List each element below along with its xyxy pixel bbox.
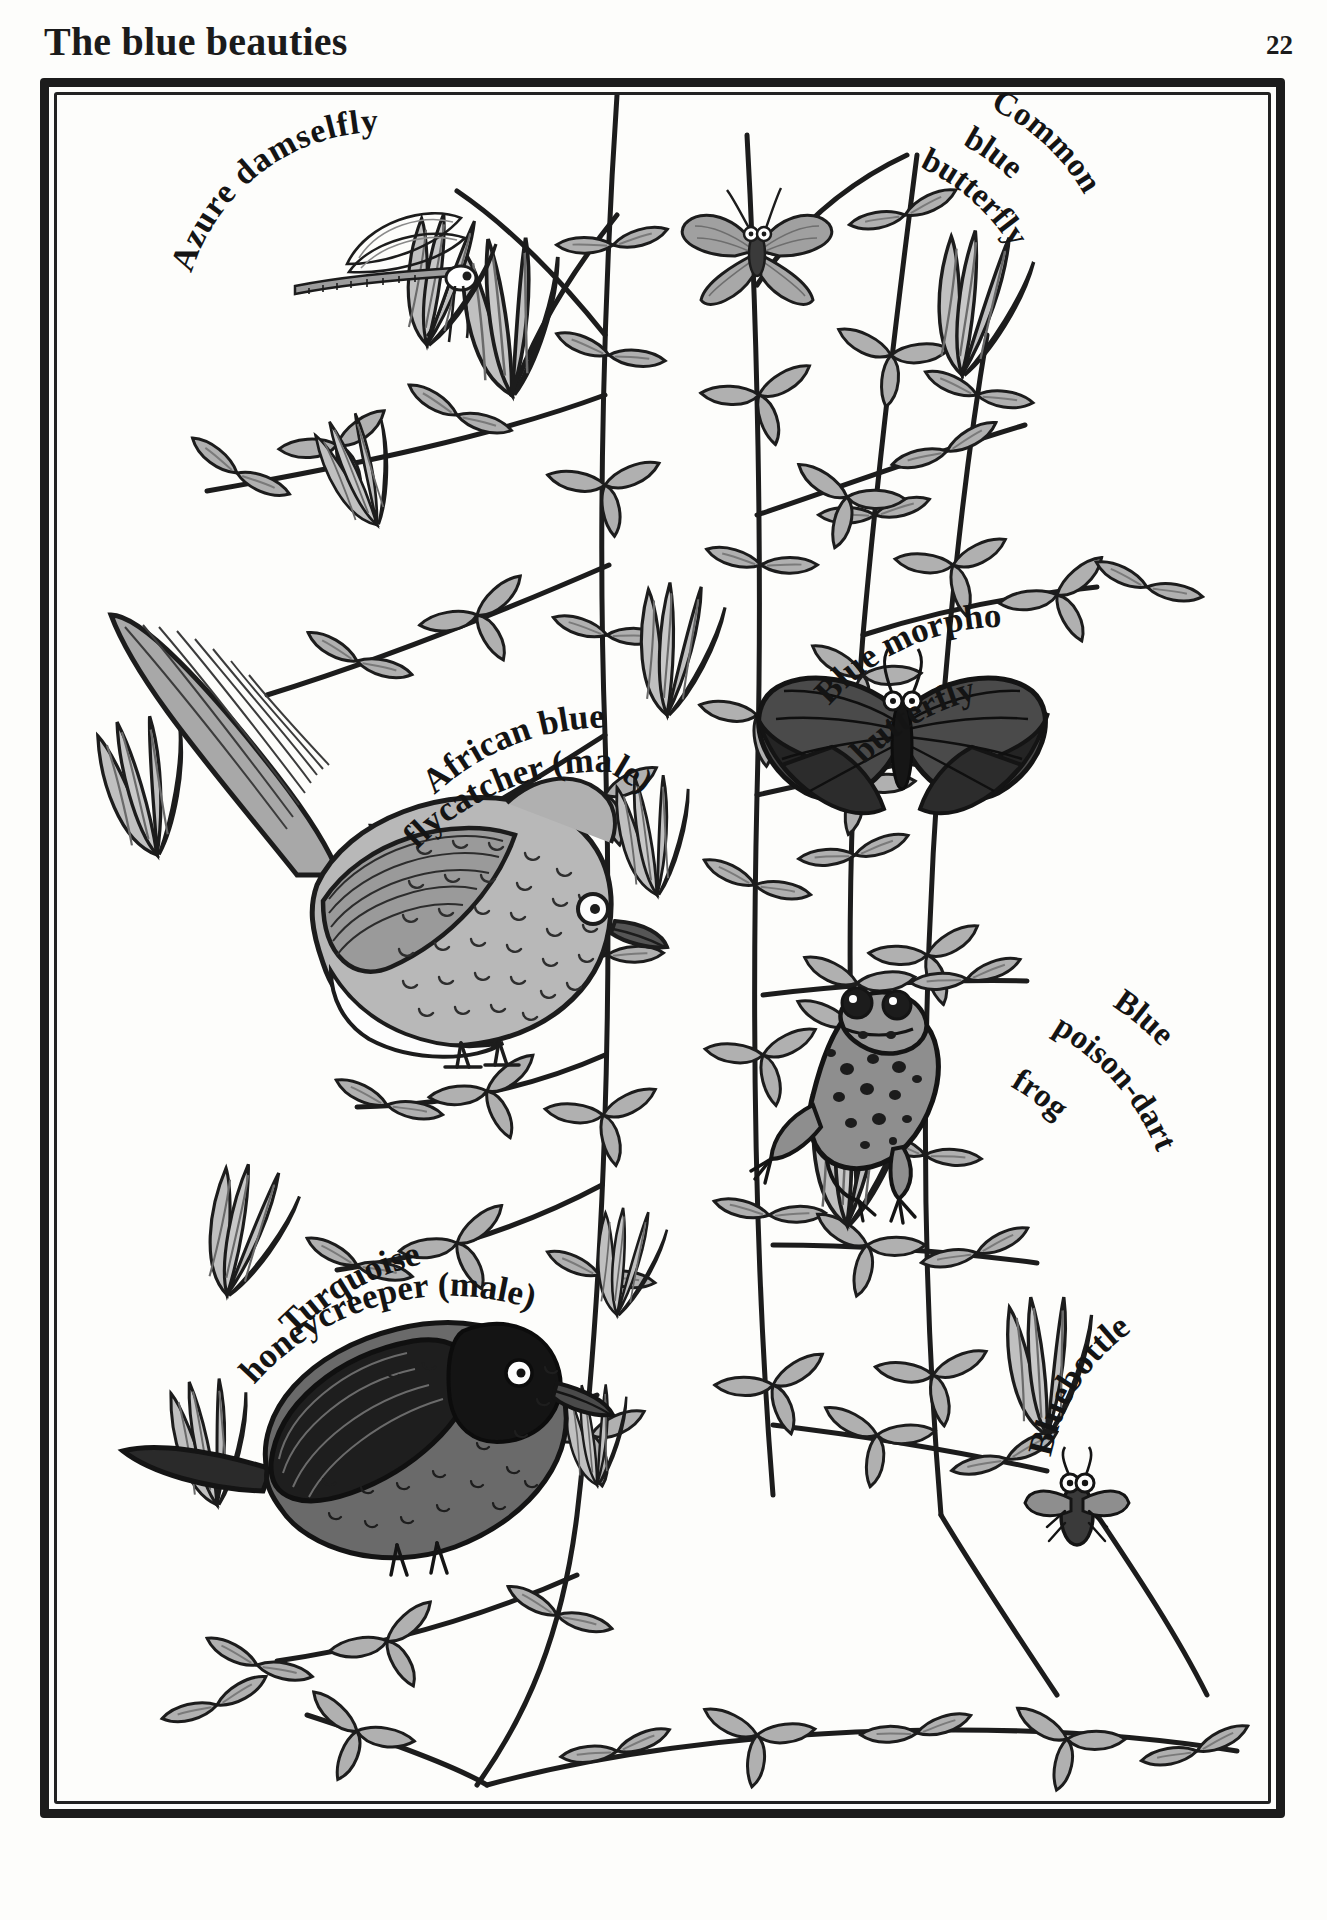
african-blue-flycatcher-figure	[111, 615, 667, 1067]
plate-artwork	[57, 95, 1268, 1801]
illustration-page: The blue beauties 22	[0, 0, 1327, 1920]
bluebottle-fly-figure	[1025, 1447, 1129, 1545]
turquoise-honeycreeper-figure	[123, 1323, 613, 1575]
page-title: The blue beauties	[44, 18, 347, 65]
page-number: 22	[1266, 30, 1293, 61]
